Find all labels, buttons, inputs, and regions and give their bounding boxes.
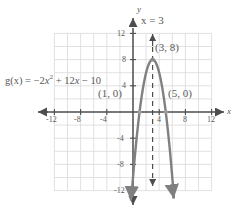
y-tick-8: 8 — [122, 55, 126, 64]
root-left-point — [137, 110, 141, 114]
root-left-label: (1, 0) — [98, 87, 122, 99]
equation-suffix: − 10 — [79, 75, 101, 86]
vertex-point — [151, 58, 155, 62]
y-tick-12: 12 — [117, 29, 125, 38]
x-tick-4: 4 — [157, 115, 161, 124]
y-tick-4: 4 — [122, 81, 126, 90]
y-axis-label: y — [137, 4, 141, 14]
x-tick-neg8: -8 — [74, 115, 81, 124]
vertex-label: (3, 8) — [155, 41, 179, 53]
root-right-label: (5, 0) — [168, 87, 192, 99]
y-tick-neg8: -8 — [117, 160, 124, 169]
y-tick-neg4: -4 — [117, 134, 124, 143]
root-right-point — [164, 110, 168, 114]
function-equation-label: g(x) = −2x2 + 12x − 10 — [5, 73, 101, 86]
x-tick-neg4: -4 — [100, 115, 107, 124]
axis-of-symmetry-label: x = 3 — [141, 14, 164, 26]
equation-middle: + 12 — [53, 75, 75, 86]
x-tick-12: 12 — [207, 115, 215, 124]
x-axis-label: x — [227, 106, 231, 116]
x-tick-8: 8 — [183, 115, 187, 124]
y-tick-neg12: -12 — [114, 186, 125, 195]
parabola-graph-figure: y x 12 8 4 -4 -8 -12 -12 -8 -4 4 8 12 x … — [0, 0, 237, 213]
x-tick-neg12: -12 — [46, 115, 57, 124]
equation-prefix: g(x) = −2 — [5, 75, 45, 86]
